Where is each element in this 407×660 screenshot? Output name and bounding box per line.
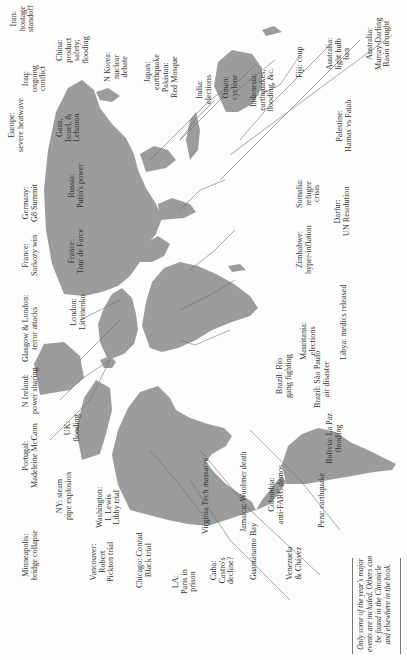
japan — [96, 88, 120, 102]
label-somalia: Somalia: refugee crisis — [296, 179, 322, 208]
label-bolivia: Bolivia: La Paz flooding — [326, 413, 343, 464]
label-gaza: Gaza, Israel, & Lebanon — [56, 113, 82, 142]
label-darfur: Darfur: UN Resolution — [334, 187, 351, 236]
label-glasgow: Glasgow & London: terror attacks — [22, 295, 39, 362]
label-iraq: Iraq: ongoing conflict — [22, 65, 48, 92]
label-china: China: product safety; flooding — [56, 36, 90, 64]
label-peru: Peru: earthquake — [318, 473, 327, 528]
north-america-landmass — [112, 386, 256, 526]
label-europe: Europe: severe heatwave — [8, 98, 25, 152]
label-russia: Russia: Putin's power — [68, 164, 85, 208]
label-australia-bulb: Australia: light bulb ban — [326, 38, 352, 70]
label-france-sarkozy: France: Sarkozy win — [22, 235, 39, 276]
southeast-asia — [140, 146, 176, 172]
label-chicago: Chicago: Conrad Black trial — [136, 532, 153, 588]
label-nireland: N Ireland: power sharing — [22, 367, 39, 414]
label-nkorea: N Korea: nuclear debate — [104, 52, 130, 82]
label-ny: NY: steam pipe explosion — [56, 472, 73, 520]
label-australia-drought: Australia: Murray-Darling Basin drought — [366, 18, 392, 70]
footnote-top-rule — [352, 558, 353, 654]
label-minneapolis: Minneapolis: bridge collapse — [22, 530, 39, 580]
label-india: India: elections — [196, 75, 213, 104]
label-france-tour: France: Tour de Farce — [68, 229, 85, 274]
label-japan: Japan: earthquake — [144, 54, 161, 90]
label-venezuela: Venezuela & Chávez — [286, 546, 303, 580]
label-cuba: Cuba: Castro's decline? — [210, 557, 236, 584]
book-page: Iran: hostage standoff China: product sa… — [0, 0, 407, 660]
label-mauritania: Mauritania: elections — [300, 322, 317, 360]
label-brazil-rio: Brazil: Rio gang fighting — [276, 354, 293, 398]
label-guantanamo: Guantánamo Bay — [250, 523, 259, 580]
greenland — [34, 342, 84, 395]
indonesia — [186, 112, 200, 160]
footnote: Only some of the year's major events are… — [356, 556, 392, 652]
label-oman: Oman: cyclone — [222, 75, 239, 100]
new-zealand — [262, 26, 282, 36]
label-germany: Germany: G8 Summit — [22, 184, 39, 222]
label-indonesia: Indonesia: earthquakes, flooding, &c. — [250, 68, 276, 112]
indian-subcontinent — [158, 198, 196, 220]
label-la: LA: Paris in prison — [172, 569, 198, 594]
label-fiji: Fiji: coup — [296, 46, 305, 78]
label-virginia: Virginia Tech massacre — [202, 458, 211, 534]
label-iran: Iran: hostage standoff — [10, 5, 36, 32]
rotated-map-canvas: Iran: hostage standoff China: product sa… — [0, 0, 407, 660]
europe — [98, 288, 138, 360]
africa — [142, 262, 258, 352]
label-colombia: Colombia: anti-FARC demos — [268, 465, 285, 524]
label-portugal: Portugal: Madeleine McCann — [22, 423, 39, 488]
label-palestine: Palestine: Hamas vs Fatah — [336, 100, 353, 152]
label-libya: Libya: medics released — [340, 285, 349, 360]
label-zimbabwe: Zimbabwe: hyper-inflation — [296, 225, 313, 274]
footnote-bottom-rule — [400, 558, 401, 654]
label-london: London: Litvinenko — [70, 294, 87, 330]
label-vancouver: Vancouver: Robert Pickton trial — [90, 542, 116, 582]
label-uk: UK: flooding — [64, 414, 81, 442]
label-jamaica: Jamaica: Woolmer death — [240, 451, 249, 532]
label-pakistan: Pakistan: Red Mosque — [162, 56, 179, 98]
label-washington: Washington: I. Lewis Libby trial — [96, 487, 122, 528]
madagascar — [228, 264, 246, 272]
